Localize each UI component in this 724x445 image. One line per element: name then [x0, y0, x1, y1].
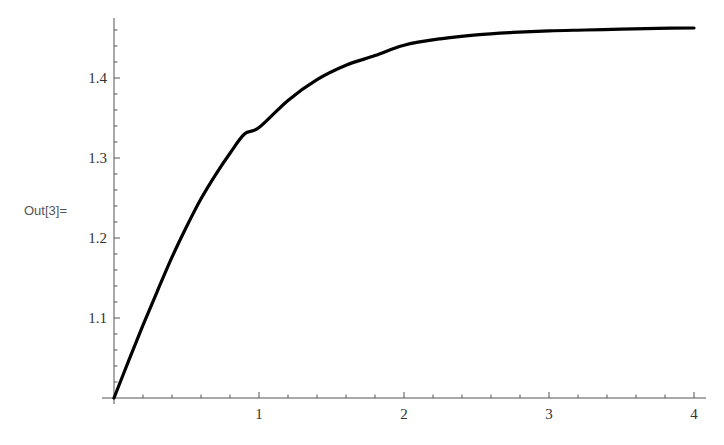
tick-labels: 12341.11.21.31.4: [88, 70, 698, 422]
tick-marks: [114, 30, 694, 398]
y-tick-label: 1.2: [88, 230, 107, 246]
y-tick-label: 1.1: [88, 310, 107, 326]
data-curve: [114, 28, 694, 398]
x-tick-label: 2: [400, 406, 408, 422]
x-tick-label: 1: [255, 406, 263, 422]
axes: [102, 18, 706, 404]
x-tick-label: 4: [690, 406, 698, 422]
y-tick-label: 1.4: [88, 70, 107, 86]
y-tick-label: 1.3: [88, 150, 107, 166]
line-chart: 12341.11.21.31.4: [0, 0, 724, 445]
x-tick-label: 3: [545, 406, 553, 422]
